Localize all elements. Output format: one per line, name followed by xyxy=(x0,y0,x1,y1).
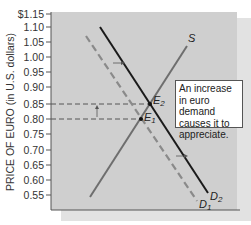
y-tick-label: 0.80 xyxy=(24,113,45,125)
y-tick-label: 0.85 xyxy=(24,98,45,110)
y-tick-label: 0.55 xyxy=(24,189,45,201)
y-tick-label: 0.90 xyxy=(24,81,45,93)
annotation-box: An increase in euro demand causes it to … xyxy=(175,80,243,128)
y-axis-ticks: $1.151.101.051.000.950.900.850.800.750.7… xyxy=(18,8,51,201)
equilibrium-point-e1 xyxy=(139,117,143,121)
y-tick-label: 0.65 xyxy=(24,159,45,171)
y-tick-label: 1.00 xyxy=(24,51,45,63)
equilibrium-point-e2 xyxy=(148,102,152,106)
y-tick-label: 1.05 xyxy=(24,36,45,48)
y-axis-title: PRICE OF EURO (in U.S. dollars) xyxy=(4,33,16,191)
y-tick-label: 0.95 xyxy=(24,66,45,78)
y-tick-label: 0.60 xyxy=(24,174,45,186)
y-tick-label: 0.70 xyxy=(24,144,45,156)
y-tick-label: 1.10 xyxy=(24,21,45,33)
supply-label: S xyxy=(188,32,196,44)
y-tick-label: 0.75 xyxy=(24,128,45,140)
y-axis-title-wrap: PRICE OF EURO (in U.S. dollars) xyxy=(0,0,20,225)
y-tick-label: $1.15 xyxy=(18,8,44,20)
